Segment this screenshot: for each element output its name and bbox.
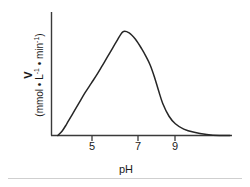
y-axis-label: V (mmol • L-1 • min-1) xyxy=(14,20,54,130)
y-units-close: ) xyxy=(34,33,45,36)
y-units-mid: • min xyxy=(34,43,45,68)
velocity-curve xyxy=(58,31,230,135)
x-axis-label-text: pH xyxy=(119,163,133,175)
x-tick-label-5: 5 xyxy=(82,140,102,152)
x-tick-label-7: 7 xyxy=(128,140,148,152)
y-axis-label-units: (mmol • L-1 • min-1) xyxy=(34,33,46,116)
ph-velocity-chart: V (mmol • L-1 • min-1) 5 7 9 pH xyxy=(0,0,250,187)
x-axis-label: pH xyxy=(0,163,250,175)
y-units-exp2: -1 xyxy=(33,37,40,43)
y-units-open: (mmol • L xyxy=(34,74,45,116)
x-tick-label-9: 9 xyxy=(165,140,185,152)
y-units-exp1: -1 xyxy=(33,68,40,74)
bottom-divider xyxy=(8,178,242,179)
y-axis-label-symbol: V xyxy=(22,33,34,116)
